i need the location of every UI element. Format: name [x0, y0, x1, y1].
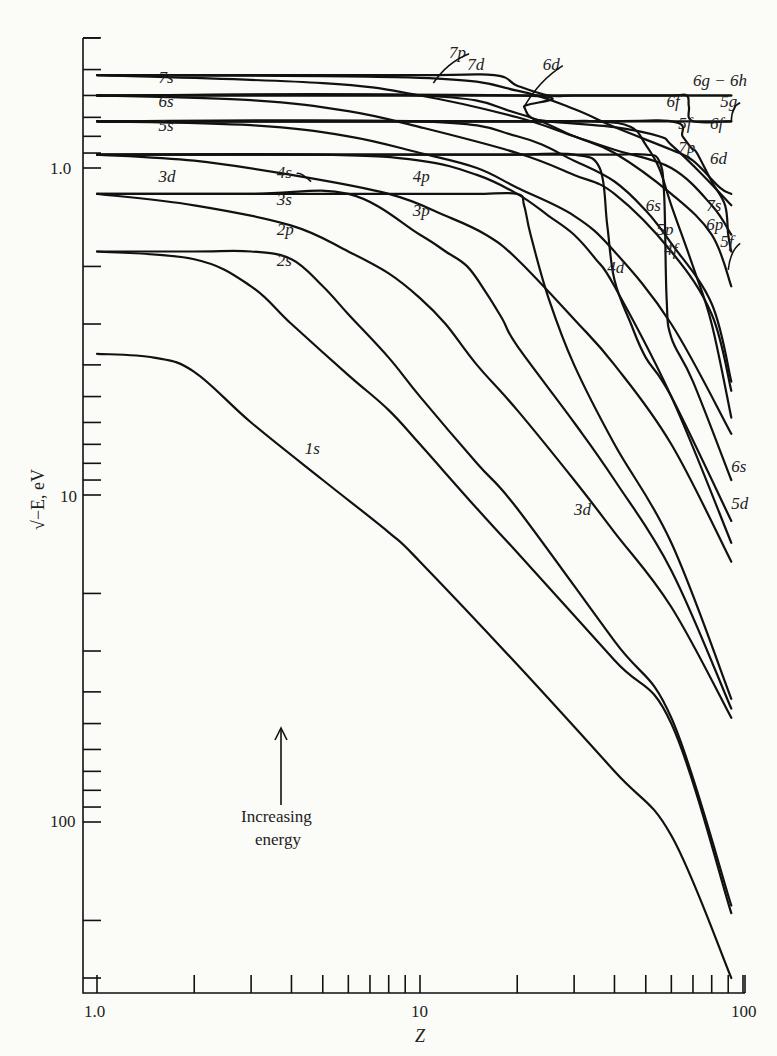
level-label-1s: 1s: [305, 439, 321, 458]
level-label-6f: 6f: [710, 114, 726, 133]
increasing-energy-annotation: Increasing energy: [241, 728, 312, 849]
curve-6s: [97, 96, 731, 391]
level-label-6g-6h: 6g − 6h: [693, 71, 747, 90]
level-label-2p: 2p: [277, 220, 294, 239]
level-label-7s: 7s: [706, 196, 722, 215]
level-label-6s: 6s: [731, 457, 747, 476]
x-axis-title: Z: [415, 1026, 426, 1046]
level-label-4f: 4f: [664, 240, 680, 259]
curve-5d: [97, 121, 731, 418]
level-label-5p: 5p: [657, 220, 674, 239]
level-label-3d: 3d: [573, 500, 592, 519]
curve-3d: [97, 193, 731, 699]
x-tick-label-1: 1.0: [84, 1002, 105, 1021]
level-label-4s: 4s: [277, 163, 293, 182]
level-label-4p: 4p: [413, 167, 430, 186]
y-axis-title: √−E, eV: [28, 469, 48, 530]
level-label-7s: 7s: [158, 68, 174, 87]
level-label-5f: 5f: [678, 114, 694, 133]
level-label-6d: 6d: [543, 55, 561, 74]
level-label-6p: 6p: [706, 215, 723, 234]
y-ticks: [83, 38, 101, 978]
y-tick-label-10: 10: [60, 487, 77, 506]
level-label-3d: 3d: [157, 167, 176, 186]
y-tick-label-100: 100: [50, 812, 76, 831]
level-label-3p: 3p: [412, 201, 430, 220]
y-tick-label-1: 1.0: [50, 159, 71, 178]
level-label-3s: 3s: [276, 190, 293, 209]
energy-levels-chart: 7p7d6d6g − 6h6f5g5f6f7p6d7s6p5f6s5p4f4d7…: [0, 0, 777, 1056]
level-label-5f: 5f: [720, 232, 736, 251]
level-label-6s: 6s: [158, 92, 174, 111]
curve-3s: [97, 194, 731, 718]
level-label-2s: 2s: [277, 251, 293, 270]
level-label-4d: 4d: [607, 258, 625, 277]
level-labels: 7p7d6d6g − 6h6f5g5f6f7p6d7s6p5f6s5p4f4d7…: [157, 43, 748, 519]
level-label-7p: 7p: [678, 138, 695, 157]
x-tick-label-10: 10: [411, 1002, 428, 1021]
curve-2s: [97, 252, 731, 914]
level-label-7d: 7d: [467, 55, 485, 74]
level-label-5s: 5s: [158, 116, 174, 135]
curve-6d: [97, 95, 731, 206]
annotation-line-1: Increasing: [241, 807, 312, 826]
level-label-6s: 6s: [646, 196, 662, 215]
curve-2p: [97, 251, 731, 906]
level-label-6d: 6d: [710, 149, 728, 168]
level-label-6f: 6f: [667, 92, 683, 111]
curve-3p: [97, 191, 731, 709]
level-label-5d: 5d: [731, 494, 749, 513]
x-tick-label-100: 100: [731, 1002, 757, 1021]
annotation-line-2: energy: [255, 830, 301, 849]
x-ticks: [97, 975, 743, 993]
